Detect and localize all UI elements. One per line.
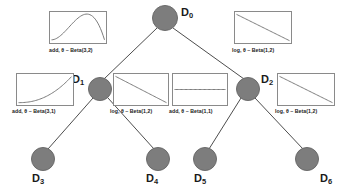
thumb-d0-left-curve <box>52 14 105 40</box>
thumb-d1-left-curve <box>19 77 72 103</box>
thumb-d2-left-plot <box>172 73 228 106</box>
thumb-d1-left-plot <box>16 73 74 106</box>
tree-edge-d0-d1 <box>104 28 157 79</box>
decision-tree-figure: D0D1D2D3D4D5D6 add, θ ~ Beta(3,2)log, θ … <box>0 0 346 190</box>
node-label-subscript: 6 <box>328 177 332 186</box>
tree-node-label-d3: D3 <box>32 172 44 184</box>
node-label-subscript: 5 <box>202 177 206 186</box>
node-label-base: D <box>32 172 40 184</box>
thumb-d0-right-caption: log, θ ~ Beta(1,2) <box>232 47 274 53</box>
tree-node-d1[interactable] <box>88 77 112 101</box>
thumb-d2-left-caption: add, θ ~ Beta(1,1) <box>169 108 213 114</box>
node-label-base: D <box>181 6 189 18</box>
thumb-d0-left-caption: add, θ ~ Beta(3,2) <box>49 47 93 53</box>
node-label-base: D <box>146 172 154 184</box>
thumb-d2-right-plot <box>277 73 335 106</box>
thumb-d0-right-plot <box>234 11 292 44</box>
tree-node-label-d2: D2 <box>261 73 273 85</box>
node-label-base: D <box>261 73 269 85</box>
tree-node-d3[interactable] <box>31 147 55 171</box>
tree-node-d6[interactable] <box>295 147 319 171</box>
node-label-subscript: 4 <box>154 177 158 186</box>
tree-node-label-d5: D5 <box>194 172 206 184</box>
thumb-d1-left-caption: add, θ ~ Beta(3,1) <box>12 108 56 114</box>
tree-node-d4[interactable] <box>146 147 170 171</box>
thumb-d1-right-curve <box>116 76 167 102</box>
thumb-d1-right-caption: log, θ ~ Beta(1,2) <box>110 108 152 114</box>
thumb-d0-left-plot <box>49 11 107 44</box>
thumb-d2-right-caption: log, θ ~ Beta(1,2) <box>275 108 317 114</box>
node-label-base: D <box>320 172 328 184</box>
tree-node-d5[interactable] <box>193 147 217 171</box>
tree-node-d0[interactable] <box>152 5 178 31</box>
node-label-base: D <box>194 172 202 184</box>
tree-node-label-d4: D4 <box>146 172 158 184</box>
node-label-subscript: 0 <box>189 11 193 20</box>
node-label-subscript: 3 <box>40 177 44 186</box>
thumb-d1-right-plot <box>113 73 169 106</box>
tree-node-label-d6: D6 <box>320 172 332 184</box>
thumb-d0-right-curve <box>237 14 290 40</box>
thumb-d2-right-curve <box>280 76 333 102</box>
node-label-subscript: 1 <box>80 78 84 87</box>
tree-node-label-d0: D0 <box>181 6 193 18</box>
node-label-subscript: 2 <box>269 78 273 87</box>
tree-node-d2[interactable] <box>236 77 260 101</box>
